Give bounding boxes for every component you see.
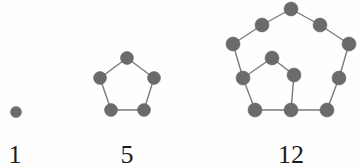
- figure-caption-pentagonal-12: 12: [278, 140, 304, 167]
- outer-lower-left-mid-dot: [236, 71, 250, 85]
- outer-lower-right-mid-dot: [332, 71, 346, 85]
- outer-left-dot: [226, 37, 240, 51]
- figure-caption-pentagonal-1: 1: [9, 140, 22, 167]
- inner-apex-dot: [265, 51, 279, 65]
- lower-left-dot: [105, 104, 118, 117]
- upper-left-dot: [94, 72, 107, 85]
- outer-bottom-right-dot: [320, 103, 334, 117]
- diagram-canvas: 1512: [0, 0, 360, 167]
- edges-layer: [100, 9, 349, 110]
- outer-right-dot: [342, 37, 356, 51]
- figure-caption-pentagonal-5: 5: [121, 140, 134, 167]
- captions-layer: 1512: [9, 140, 305, 167]
- outer-upper-left-mid-dot: [255, 18, 269, 32]
- apex-dot: [121, 52, 134, 65]
- center-dot: [11, 107, 22, 118]
- upper-right-dot: [148, 72, 161, 85]
- outer-apex-dot: [284, 2, 298, 16]
- outer-upper-right-mid-dot: [313, 18, 327, 32]
- pentagonal-numbers-diagram: 1512: [0, 0, 360, 167]
- dots-layer: [11, 2, 357, 118]
- lower-right-dot: [138, 104, 151, 117]
- inner-bottom-right-dot: [284, 103, 298, 117]
- inner-right-dot: [287, 68, 301, 82]
- outer-bottom-left-dot: [248, 103, 262, 117]
